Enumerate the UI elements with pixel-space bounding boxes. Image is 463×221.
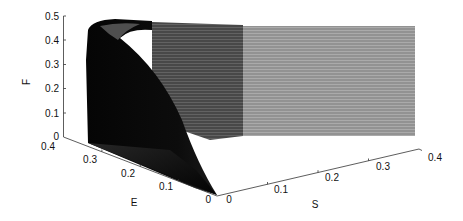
s-axis-ticks: 0 0.1 0.2 0.3 0.4 (226, 152, 442, 205)
s-tick: 0.1 (274, 184, 288, 195)
e-tick: 0.3 (83, 154, 97, 165)
e-tick: 0.4 (41, 141, 55, 152)
s-tick: 0 (226, 194, 232, 205)
f-tick: 0.5 (45, 11, 59, 22)
s-tick: 0.4 (428, 152, 442, 163)
e-axis-label: E (131, 197, 138, 208)
f-tick: 0.1 (45, 108, 59, 119)
f-tick: 0.4 (45, 35, 59, 46)
s-axis-label: S (312, 199, 319, 210)
s-tick: 0.3 (376, 161, 390, 172)
f-axis-ticks: 0.5 0.4 0.3 0.2 0.1 0 (45, 11, 59, 143)
f-tick: 0.2 (45, 83, 59, 94)
e-tick: 0.2 (121, 168, 135, 179)
surface-sheet-light (243, 26, 415, 136)
e-tick: 0 (205, 194, 211, 205)
s-tick: 0.2 (325, 172, 339, 183)
e-tick: 0.1 (159, 181, 173, 192)
surface-3d-chart: 0.5 0.4 0.3 0.2 0.1 0 F 0.4 0.3 0.2 0.1 … (0, 0, 463, 221)
f-tick: 0.3 (45, 59, 59, 70)
f-axis-label: F (21, 79, 32, 85)
